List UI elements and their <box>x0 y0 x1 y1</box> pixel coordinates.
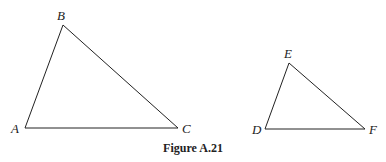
vertex-label-f: F <box>368 122 378 137</box>
vertex-label-c: C <box>182 121 191 136</box>
vertex-label-b: B <box>57 8 65 23</box>
figure-caption: Figure A.21 <box>0 141 386 156</box>
figure-canvas: A B C D E F <box>0 0 386 162</box>
vertex-label-e: E <box>283 46 292 61</box>
vertex-label-a: A <box>10 121 19 136</box>
triangle-abc <box>25 25 178 128</box>
vertex-label-d: D <box>251 122 262 137</box>
triangle-def <box>265 63 365 129</box>
